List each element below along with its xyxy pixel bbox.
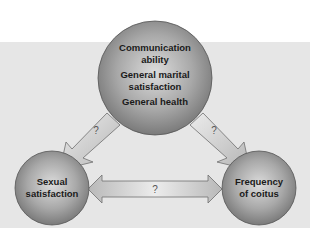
arrow-left-right: ?	[88, 175, 222, 203]
node-top-line-1: Communication	[119, 42, 191, 53]
relationship-diagram: ? ? ? Communication ability General mari…	[0, 0, 310, 234]
node-left-line-2: satisfaction	[26, 188, 79, 199]
node-top-line-4: satisfaction	[129, 81, 182, 92]
node-top-line-3: General marital	[120, 69, 189, 80]
node-right-line-1: Frequency	[235, 176, 284, 187]
node-top-line-2: ability	[141, 54, 169, 65]
arrow-top-to-left-label: ?	[93, 125, 99, 136]
node-left-line-1: Sexual	[37, 176, 68, 187]
node-top-factors: Communication ability General marital sa…	[98, 21, 212, 135]
node-frequency-of-coitus: Frequency of coitus	[222, 151, 296, 225]
arrow-top-to-right-label: ?	[211, 125, 217, 136]
arrow-left-right-label: ?	[152, 184, 158, 195]
node-top-line-5: General health	[122, 96, 188, 107]
node-sexual-satisfaction: Sexual satisfaction	[15, 151, 89, 225]
node-right-line-2: of coitus	[239, 188, 279, 199]
